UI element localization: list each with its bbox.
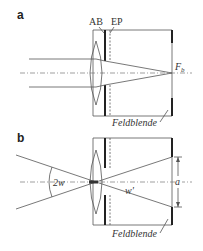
entrance-pupil-label: EP — [111, 16, 123, 27]
field-stop-size-label: a — [175, 176, 180, 187]
panel-b: b — [16, 131, 192, 239]
focal-point-label: Fb — [174, 61, 185, 74]
panel-a-label: a — [17, 8, 24, 22]
panel-a: a — [17, 8, 192, 128]
field-angle-label: 2w — [53, 177, 65, 188]
aperture-stop-label: AB — [89, 16, 103, 27]
field-stop-leader-b — [160, 219, 168, 233]
panel-b-label: b — [17, 131, 24, 145]
field-stop-label-b: Feldblende — [111, 228, 158, 239]
principal-point-marker — [89, 181, 98, 184]
field-stop-label-a: Feldblende — [111, 117, 158, 128]
image-angle-label: w' — [125, 185, 135, 196]
